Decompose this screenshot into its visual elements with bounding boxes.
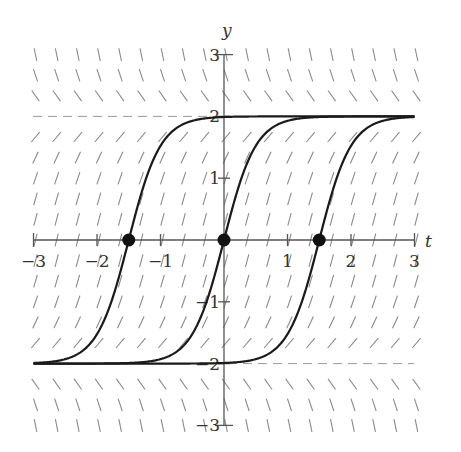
- slope-segment: [222, 338, 230, 348]
- slope-segment: [415, 234, 418, 247]
- slope-segment: [52, 338, 60, 348]
- slope-segment: [351, 296, 355, 308]
- slope-segment: [55, 296, 59, 308]
- slope-segment: [224, 275, 228, 287]
- slope-segment: [309, 172, 313, 184]
- slope-segment: [139, 152, 144, 164]
- slope-segment: [138, 379, 146, 390]
- slope-segment: [33, 69, 37, 81]
- slope-segment: [243, 91, 251, 102]
- slope-segment: [266, 317, 271, 329]
- slope-segment: [330, 399, 334, 411]
- slope-segment: [161, 193, 165, 205]
- slope-segment: [351, 69, 355, 81]
- slope-segment: [267, 48, 270, 61]
- slope-segment: [288, 48, 291, 61]
- slope-segment: [244, 317, 249, 329]
- slope-segment: [116, 91, 124, 102]
- slope-segment: [95, 132, 103, 142]
- slope-segment: [33, 317, 38, 329]
- slope-segment: [287, 172, 291, 184]
- slope-segment: [179, 132, 187, 142]
- slope-segment: [204, 48, 207, 61]
- slope-segment: [412, 338, 420, 348]
- slope-segment: [350, 317, 355, 329]
- slope-segment: [97, 69, 101, 81]
- slope-segment: [392, 91, 400, 102]
- slope-segment: [34, 193, 38, 205]
- slope-segment: [161, 275, 165, 287]
- slope-segment: [182, 275, 186, 287]
- slope-segment: [393, 193, 397, 205]
- slope-segment: [182, 254, 185, 267]
- slope-segment: [309, 48, 312, 61]
- slope-segment: [352, 419, 355, 432]
- slope-segment: [309, 399, 313, 411]
- slope-segment: [394, 254, 397, 267]
- slope-segment: [351, 172, 355, 184]
- slope-segment: [140, 213, 143, 226]
- slope-segment: [415, 48, 418, 61]
- slope-segment: [201, 379, 209, 390]
- slope-segment: [76, 254, 79, 267]
- slope-segment: [181, 152, 186, 164]
- slope-segment: [116, 132, 124, 142]
- slope-segment: [182, 69, 186, 81]
- slope-segment: [370, 91, 378, 102]
- slope-segment: [55, 172, 59, 184]
- slope-segment: [370, 132, 378, 142]
- slope-segment: [52, 132, 60, 142]
- slope-segment: [330, 275, 334, 287]
- slope-segment: [53, 91, 61, 102]
- slope-segment: [203, 193, 207, 205]
- slope-segment: [243, 379, 251, 390]
- slope-segment: [224, 193, 228, 205]
- slope-segment: [330, 419, 333, 432]
- slope-segment: [160, 69, 164, 81]
- slope-segment: [54, 152, 59, 164]
- slope-segment: [266, 399, 270, 411]
- slope-segment: [118, 296, 122, 308]
- y-axis-label: y: [221, 20, 232, 40]
- slope-segment: [245, 399, 249, 411]
- slope-segment: [267, 213, 270, 226]
- t-tick-label: 2: [346, 251, 357, 271]
- slope-segment: [137, 132, 145, 142]
- slope-segment: [309, 69, 313, 81]
- slope-segment: [265, 379, 273, 390]
- slope-segment: [414, 172, 418, 184]
- slope-segment: [182, 193, 186, 205]
- slope-segment: [246, 419, 249, 432]
- slope-segment: [393, 317, 398, 329]
- slope-segment: [119, 419, 122, 432]
- slope-segment: [159, 379, 167, 390]
- slope-segment: [288, 419, 291, 432]
- slope-segment: [329, 317, 334, 329]
- slope-segment: [76, 296, 80, 308]
- slope-segment: [34, 213, 37, 226]
- slope-segment: [55, 48, 58, 61]
- slope-segment: [415, 193, 419, 205]
- slope-segment: [98, 48, 101, 61]
- slope-segment: [392, 379, 400, 390]
- slope-segment: [243, 338, 251, 348]
- slope-segment: [414, 69, 418, 81]
- t-tick-label: −3: [21, 251, 46, 271]
- slope-segment: [309, 213, 312, 226]
- slope-segment: [55, 254, 58, 267]
- slope-segment: [372, 296, 376, 308]
- slope-segment: [245, 275, 249, 287]
- slope-segment: [203, 172, 207, 184]
- x-axis-label: t: [425, 231, 432, 251]
- slope-segment: [415, 275, 419, 287]
- slope-segment: [97, 275, 101, 287]
- slope-segment: [76, 275, 80, 287]
- slope-segment: [285, 338, 293, 348]
- slope-segment: [309, 296, 313, 308]
- slope-segment: [138, 91, 146, 102]
- slope-segment: [393, 275, 397, 287]
- slope-segment: [412, 132, 420, 142]
- slope-segment: [287, 69, 291, 81]
- slope-segment: [160, 399, 164, 411]
- slope-segment: [330, 69, 334, 81]
